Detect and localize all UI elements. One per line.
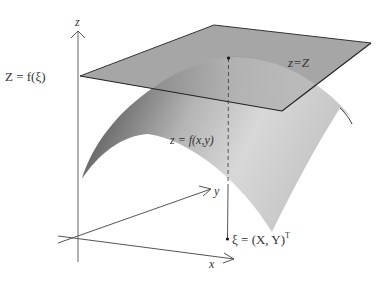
- z-axis: [71, 31, 85, 262]
- y-axis-label: y: [213, 184, 220, 198]
- xi-point: [226, 237, 229, 240]
- z-axis-label: z: [74, 15, 80, 29]
- surface-label: z = f(x,y): [169, 133, 214, 147]
- xi-point-label-superscript: T: [285, 231, 290, 240]
- maximum-point: [227, 56, 230, 59]
- x-axis: [58, 236, 234, 263]
- y-axis: [58, 186, 211, 243]
- diagram-canvas: z y x Z = f(ξ) z=Z z = f(x,y) ξ = (X, Y)…: [0, 0, 388, 285]
- plane-label: z=Z: [287, 55, 310, 70]
- plane-level-label: Z = f(ξ): [5, 69, 46, 84]
- xi-point-label: ξ = (X, Y)T: [232, 231, 290, 247]
- x-axis-label: x: [208, 257, 215, 271]
- xi-point-label-main: ξ = (X, Y): [232, 232, 285, 247]
